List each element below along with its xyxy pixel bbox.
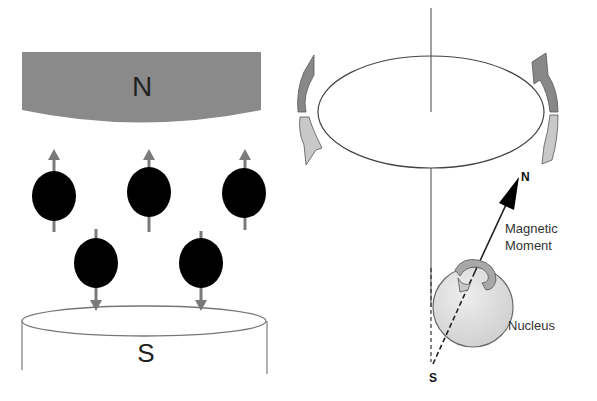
nmr-diagram: N S (0, 0, 597, 401)
spin-particle-down (74, 229, 118, 311)
moment-north-label: N (521, 170, 530, 184)
spin-particle-up (222, 149, 266, 230)
nucleus-label: Nucleus (508, 318, 555, 333)
spin-particle-up (32, 149, 76, 232)
spin-particle-up (127, 149, 171, 232)
magnetic-moment-label-line2: Moment (505, 238, 552, 253)
south-pole-label: S (137, 338, 154, 368)
nucleus-sphere (433, 267, 513, 347)
north-pole-label: N (132, 71, 152, 102)
rotation-arrow-right-icon (532, 53, 558, 164)
spin-particle-down (179, 231, 223, 311)
moment-south-label: S (429, 371, 437, 385)
magnetic-moment-label-line1: Magnetic (505, 221, 558, 236)
